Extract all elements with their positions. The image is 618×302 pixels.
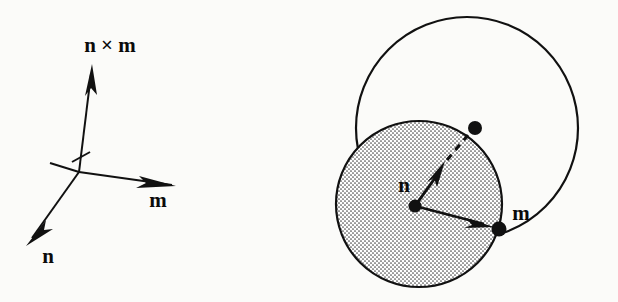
- m-endpoint-dot: [492, 222, 507, 237]
- n-shaft: [32, 172, 79, 238]
- vector-diagram-figure: n × m m n n: [0, 0, 618, 302]
- label-m-right: m: [512, 201, 530, 225]
- label-m-left: m: [149, 188, 167, 212]
- n-cross-m-arrowhead: [85, 64, 97, 96]
- label-n-right: n: [398, 173, 410, 197]
- diagram-canvas: n × m m n n: [0, 0, 618, 302]
- label-n-cross-m: n × m: [84, 33, 136, 57]
- center-dot: [409, 200, 422, 213]
- n-arrowhead: [26, 220, 53, 246]
- left-panel-group: n × m m n: [26, 33, 176, 268]
- m-arrowhead: [136, 176, 176, 188]
- axis-tail-line: [50, 163, 79, 172]
- right-panel-group: n m: [336, 17, 578, 287]
- n-endpoint-dot: [468, 121, 482, 135]
- label-n-left: n: [42, 244, 54, 268]
